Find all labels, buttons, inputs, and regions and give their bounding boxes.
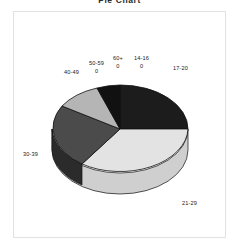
pie-label-14-16-text: 14-16 [134,55,149,61]
pie-label-60-plus: 60+ 0 [113,55,123,70]
pie-label-50-59-text: 50-59 [89,60,104,66]
pie-slices [53,85,188,172]
pie-label-40-49-text: 40-49 [64,69,79,75]
pie-label-60-plus-text: 60+ [113,55,123,61]
pie-label-21-29: 21-29 [182,200,197,207]
chart-page: Pie Chart [0,0,239,251]
pie-label-14-16: 14-16 0 [134,55,149,70]
chart-panel: 30-39 40-49 50-59 0 60+ 0 14-16 0 17-20 [13,11,226,238]
pie-label-30-39-text: 30-39 [23,151,38,157]
pie-chart: 30-39 40-49 50-59 0 60+ 0 14-16 0 17-20 [14,12,227,239]
pie-value-14-16: 0 [134,63,149,70]
pie-slice-17-20 [120,85,188,129]
pie-label-17-20-text: 17-20 [173,65,188,71]
pie-value-60-plus: 0 [113,63,123,70]
pie-label-30-39: 30-39 [23,151,38,158]
pie-label-21-29-text: 21-29 [182,200,197,206]
pie-label-40-49: 40-49 [64,69,79,76]
pie-label-50-59: 50-59 0 [89,60,104,75]
page-title: Pie Chart [0,0,239,3]
pie-value-50-59: 0 [89,68,104,75]
pie-label-17-20: 17-20 [173,65,188,72]
